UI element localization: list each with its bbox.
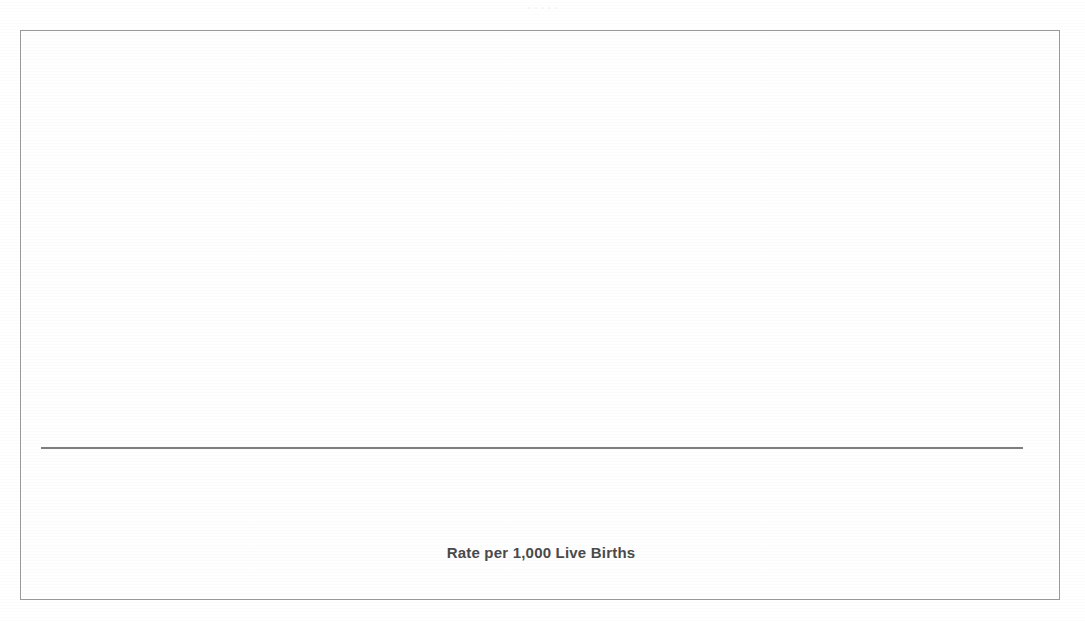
x-axis-title: Rate per 1,000 Live Births (21, 544, 1061, 561)
cropped-title-remnant: . . . . . (0, 0, 1085, 16)
x-axis-line (41, 447, 1023, 449)
chart-frame: 11.4 Non-Hispanic Black 9.4 American Ind… (20, 30, 1060, 600)
plot-area: 11.4 Non-Hispanic Black 9.4 American Ind… (21, 31, 1061, 601)
